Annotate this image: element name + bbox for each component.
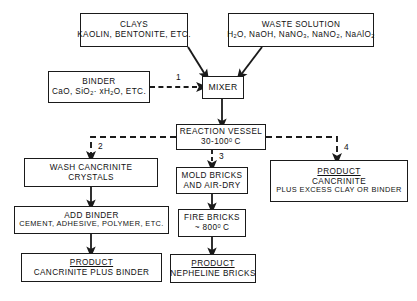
- node-fire-bricks[interactable]: FIRE BRICKS ~ 8000 C: [178, 209, 246, 237]
- node-clays-line2: KAOLIN, BENTONITE, ETC.: [77, 30, 191, 40]
- node-product-cancrinite-plus-excess[interactable]: PRODUCT CANCRINITE PLUS EXCESS CLAY OR B…: [270, 160, 408, 202]
- node-product-cancrinite-plus-binder[interactable]: PRODUCT CANCRINITE PLUS BINDER: [21, 253, 162, 282]
- branch-label-4: 4: [344, 142, 349, 152]
- arrow-waste-to-mixer: [240, 47, 262, 76]
- node-wash-line2: CRYSTALS: [68, 173, 114, 183]
- node-product-mid-line1: PRODUCT: [191, 259, 234, 269]
- node-add-binder-line2: CEMENT, ADHESIVE, POLYMER, ETC.: [19, 220, 164, 229]
- node-mold-line2: AND AIR-DRY: [183, 181, 240, 191]
- node-wash-line1: WASH CANCRINITE: [50, 163, 133, 173]
- node-product-right-line1: PRODUCT: [317, 167, 360, 177]
- node-product-nepheline-bricks[interactable]: PRODUCT NEPHELINE BRICKS: [170, 254, 256, 283]
- node-mold-bricks[interactable]: MOLD BRICKS AND AIR-DRY: [176, 167, 248, 194]
- node-waste-line1: WASTE SOLUTION: [262, 20, 341, 30]
- node-product-mid-line2: NEPHELINE BRICKS: [170, 269, 256, 279]
- node-fire-temp: ~ 8000 C: [195, 223, 230, 233]
- branch-label-2: 2: [98, 141, 103, 151]
- node-mixer-label: MIXER: [208, 82, 237, 92]
- arrow-reaction-vessel-to-wash: [91, 137, 176, 157]
- node-product-left-line2: CANCRINITE PLUS BINDER: [34, 268, 150, 278]
- node-mold-line1: MOLD BRICKS: [182, 171, 243, 181]
- node-binder[interactable]: BINDER CaO, SiO2· xH2O, ETC.: [48, 71, 150, 103]
- node-add-binder[interactable]: ADD BINDER CEMENT, ADHESIVE, POLYMER, ET…: [14, 206, 169, 234]
- node-waste-solution[interactable]: WASTE SOLUTION H2O, NaOH, NaNO3, NaNO2, …: [228, 13, 374, 47]
- node-reaction-vessel[interactable]: REACTION VESSEL 30-1000 C: [176, 124, 266, 150]
- node-clays[interactable]: CLAYS KAOLIN, BENTONITE, ETC.: [80, 13, 188, 47]
- flowchart-canvas: CLAYS KAOLIN, BENTONITE, ETC. WASTE SOLU…: [0, 0, 417, 301]
- node-wash-cancrinite-crystals[interactable]: WASH CANCRINITE CRYSTALS: [24, 158, 158, 187]
- branch-label-3: 3: [219, 151, 224, 161]
- node-mixer[interactable]: MIXER: [202, 76, 244, 99]
- branch-label-1: 1: [176, 72, 181, 82]
- node-fire-line1: FIRE BRICKS: [184, 213, 240, 223]
- node-binder-formula: CaO, SiO2· xH2O, ETC.: [52, 87, 146, 97]
- arrow-clays-to-mixer: [188, 47, 206, 76]
- node-reaction-vessel-line1: REACTION VESSEL: [180, 127, 262, 137]
- arrow-reaction-vessel-to-product-right: [266, 137, 337, 159]
- node-product-right-line3: PLUS EXCESS CLAY OR BINDER: [276, 186, 402, 195]
- node-waste-formula: H2O, NaOH, NaNO3, NaNO2, NaAlO2: [227, 30, 375, 40]
- node-product-left-line1: PRODUCT: [70, 258, 113, 268]
- node-clays-line1: CLAYS: [120, 20, 148, 30]
- node-reaction-vessel-temp: 30-1000 C: [201, 137, 241, 147]
- node-binder-line1: BINDER: [82, 77, 115, 87]
